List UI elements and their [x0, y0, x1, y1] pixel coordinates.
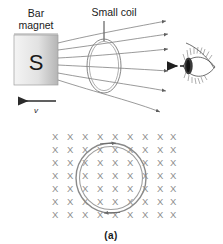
x-symbol: X: [112, 131, 119, 142]
x-symbol: X: [67, 183, 74, 194]
x-symbol: X: [127, 157, 134, 168]
x-symbol: X: [142, 144, 149, 155]
x-symbol: X: [97, 170, 104, 181]
x-symbol: X: [97, 183, 104, 194]
field-line-1: [58, 21, 166, 43]
x-symbol: X: [127, 183, 134, 194]
x-symbol: X: [52, 144, 59, 155]
x-symbol: X: [112, 183, 119, 194]
x-symbol: X: [52, 209, 59, 220]
field-line-3: [58, 49, 168, 58]
x-symbol: X: [127, 131, 134, 142]
x-symbol: X: [142, 131, 149, 142]
x-symbol: X: [67, 157, 74, 168]
small-coil-outer-ring: [87, 39, 121, 93]
eye-pupil: [186, 60, 190, 72]
x-symbol: X: [157, 209, 164, 220]
small-coil: [87, 39, 121, 93]
x-symbol: X: [157, 196, 164, 207]
field-line-6: [58, 80, 160, 112]
bar-magnet-label-line1: Bar: [28, 7, 45, 19]
coil-current-indicator-top: [100, 143, 116, 144]
x-symbol: X: [157, 131, 164, 142]
x-symbol: X: [67, 209, 74, 220]
observer-eye: [183, 43, 215, 84]
field-line-5: [58, 73, 166, 91]
x-symbol: X: [52, 196, 59, 207]
x-symbol: X: [97, 196, 104, 207]
x-symbol: X: [67, 170, 74, 181]
x-symbol: X: [170, 183, 177, 194]
x-symbol: X: [82, 131, 89, 142]
south-pole-label: S: [29, 50, 44, 75]
x-symbol: X: [170, 131, 177, 142]
x-symbol: X: [170, 157, 177, 168]
field-into-page-grid: X X X X X X X X X X X X X X X X X X X X …: [52, 131, 177, 220]
physics-diagram: Bar magnet Small coil S v: [0, 0, 223, 244]
x-symbol: X: [52, 170, 59, 181]
velocity-label: v: [34, 106, 39, 115]
x-symbol: X: [112, 170, 119, 181]
bar-magnet-label-line2: magnet: [18, 19, 53, 31]
coil-current-indicator-bottom: [104, 212, 120, 213]
x-symbol: X: [67, 144, 74, 155]
small-coil-inner-ring: [89, 41, 118, 90]
magnetic-field-lines: [58, 21, 168, 112]
x-symbol: X: [157, 183, 164, 194]
x-symbol: X: [170, 144, 177, 155]
field-line-4: [58, 65, 168, 71]
figure-caption: (a): [104, 230, 117, 241]
field-line-2: [58, 34, 168, 50]
x-symbol: X: [170, 209, 177, 220]
bar-magnet: S: [14, 35, 58, 85]
x-symbol: X: [112, 144, 119, 155]
x-symbol: X: [157, 157, 164, 168]
x-symbol: X: [82, 209, 89, 220]
small-coil-label: Small coil: [92, 6, 137, 18]
x-symbol: X: [67, 196, 74, 207]
x-symbol: X: [142, 196, 149, 207]
x-symbol: X: [52, 157, 59, 168]
x-symbol: X: [67, 131, 74, 142]
x-symbol: X: [52, 183, 59, 194]
x-symbol: X: [127, 170, 134, 181]
x-symbol: X: [142, 209, 149, 220]
x-symbol: X: [97, 157, 104, 168]
x-symbol: X: [112, 209, 119, 220]
x-symbol: X: [97, 131, 104, 142]
x-symbol: X: [127, 209, 134, 220]
x-symbol: X: [157, 170, 164, 181]
x-symbol: X: [82, 170, 89, 181]
velocity-arrow-group: v: [18, 101, 56, 115]
x-symbol: X: [112, 157, 119, 168]
x-symbol: X: [112, 196, 119, 207]
x-symbol: X: [170, 196, 177, 207]
x-symbol: X: [157, 144, 164, 155]
figure-container: Bar magnet Small coil S v: [0, 0, 223, 244]
x-symbol: X: [52, 131, 59, 142]
x-symbol: X: [170, 170, 177, 181]
